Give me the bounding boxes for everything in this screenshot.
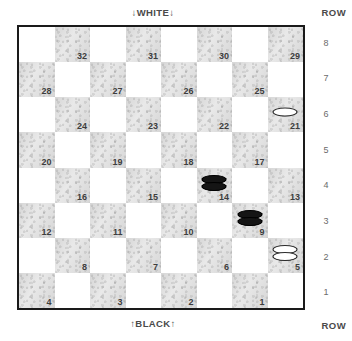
board-square-13[interactable]: 13 — [268, 168, 304, 203]
board-square-blank-r3c4 — [126, 203, 162, 238]
square-number-label: 25 — [254, 86, 264, 97]
board-square-blank-r7c8 — [268, 62, 304, 97]
board-square-blank-r8c5 — [161, 27, 197, 62]
board-square-blank-r5c6 — [197, 132, 233, 167]
black-side-label: ↑BLACK↑ — [0, 318, 306, 329]
board-square-22[interactable]: 22 — [197, 97, 233, 132]
board-square-blank-r1c4 — [126, 273, 162, 308]
square-number-label: 12 — [41, 227, 51, 238]
square-number-label: 23 — [148, 121, 158, 132]
board-square-7[interactable]: 7 — [126, 238, 162, 273]
board-square-15[interactable]: 15 — [126, 168, 162, 203]
row-number-5: 5 — [310, 132, 350, 168]
square-number-label: 6 — [224, 262, 229, 273]
square-number-label: 9 — [259, 227, 264, 238]
row-number-gutter: 87654321 — [310, 25, 350, 310]
square-number-label: 3 — [117, 297, 122, 308]
square-number-label: 24 — [77, 121, 87, 132]
board-square-4[interactable]: 4 — [19, 273, 55, 308]
square-number-label: 28 — [41, 86, 51, 97]
row-number-4: 4 — [310, 168, 350, 204]
board-square-blank-r5c4 — [126, 132, 162, 167]
board-square-blank-r6c7 — [232, 97, 268, 132]
board-grid: 3231302928272625242322212019181716151413… — [19, 27, 303, 308]
board-square-19[interactable]: 19 — [90, 132, 126, 167]
board-square-28[interactable]: 28 — [19, 62, 55, 97]
square-number-label: 16 — [77, 192, 87, 203]
board-square-25[interactable]: 25 — [232, 62, 268, 97]
board-square-5[interactable]: 5 — [268, 238, 304, 273]
board-square-30[interactable]: 30 — [197, 27, 233, 62]
board-square-blank-r6c1 — [19, 97, 55, 132]
board-square-8[interactable]: 8 — [55, 238, 91, 273]
board-square-1[interactable]: 1 — [232, 273, 268, 308]
board-square-12[interactable]: 12 — [19, 203, 55, 238]
board-square-blank-r7c2 — [55, 62, 91, 97]
board-square-27[interactable]: 27 — [90, 62, 126, 97]
row-number-3: 3 — [310, 203, 350, 239]
board-square-blank-r4c7 — [232, 168, 268, 203]
white-king-piece-5[interactable] — [273, 245, 298, 263]
board-square-6[interactable]: 6 — [197, 238, 233, 273]
board-square-16[interactable]: 16 — [55, 168, 91, 203]
board-square-17[interactable]: 17 — [232, 132, 268, 167]
row-heading-bottom: ROW — [322, 320, 346, 331]
board-square-blank-r3c6 — [197, 203, 233, 238]
square-number-label: 26 — [183, 86, 193, 97]
row-number-7: 7 — [310, 61, 350, 97]
board-square-blank-r2c5 — [161, 238, 197, 273]
board-square-blank-r5c8 — [268, 132, 304, 167]
square-number-label: 29 — [290, 51, 300, 62]
checkers-board[interactable]: 3231302928272625242322212019181716151413… — [17, 25, 305, 310]
board-square-blank-r2c3 — [90, 238, 126, 273]
row-number-1: 1 — [310, 274, 350, 310]
board-square-2[interactable]: 2 — [161, 273, 197, 308]
square-number-label: 18 — [183, 157, 193, 168]
square-number-label: 15 — [148, 192, 158, 203]
square-number-label: 22 — [219, 121, 229, 132]
board-square-32[interactable]: 32 — [55, 27, 91, 62]
square-number-label: 8 — [82, 262, 87, 273]
board-square-blank-r8c3 — [90, 27, 126, 62]
board-square-23[interactable]: 23 — [126, 97, 162, 132]
square-number-label: 27 — [112, 86, 122, 97]
square-number-label: 5 — [295, 262, 300, 273]
black-king-piece-9[interactable] — [237, 210, 262, 228]
board-square-blank-r4c1 — [19, 168, 55, 203]
board-square-blank-r7c6 — [197, 62, 233, 97]
white-piece-21[interactable] — [273, 108, 298, 119]
square-number-label: 17 — [254, 157, 264, 168]
board-square-29[interactable]: 29 — [268, 27, 304, 62]
board-square-blank-r1c2 — [55, 273, 91, 308]
black-king-piece-14[interactable] — [202, 175, 227, 193]
board-square-blank-r8c7 — [232, 27, 268, 62]
board-square-21[interactable]: 21 — [268, 97, 304, 132]
board-square-14[interactable]: 14 — [197, 168, 233, 203]
board-square-blank-r1c8 — [268, 273, 304, 308]
piece-disc-icon — [273, 108, 298, 119]
square-number-label: 11 — [113, 227, 123, 238]
board-square-3[interactable]: 3 — [90, 273, 126, 308]
piece-disc-icon — [202, 182, 227, 193]
board-square-blank-r7c4 — [126, 62, 162, 97]
board-square-blank-r5c2 — [55, 132, 91, 167]
board-square-blank-r4c5 — [161, 168, 197, 203]
square-number-label: 20 — [41, 157, 51, 168]
board-square-31[interactable]: 31 — [126, 27, 162, 62]
board-square-26[interactable]: 26 — [161, 62, 197, 97]
board-square-9[interactable]: 9 — [232, 203, 268, 238]
board-square-11[interactable]: 11 — [90, 203, 126, 238]
board-square-20[interactable]: 20 — [19, 132, 55, 167]
board-square-blank-r6c5 — [161, 97, 197, 132]
board-square-blank-r8c1 — [19, 27, 55, 62]
board-square-blank-r4c3 — [90, 168, 126, 203]
board-square-10[interactable]: 10 — [161, 203, 197, 238]
board-square-blank-r3c2 — [55, 203, 91, 238]
row-number-8: 8 — [310, 25, 350, 61]
row-heading-top: ROW — [322, 7, 346, 18]
board-square-blank-r1c6 — [197, 273, 233, 308]
square-number-label: 4 — [46, 297, 51, 308]
square-number-label: 19 — [112, 157, 122, 168]
board-square-18[interactable]: 18 — [161, 132, 197, 167]
board-square-24[interactable]: 24 — [55, 97, 91, 132]
